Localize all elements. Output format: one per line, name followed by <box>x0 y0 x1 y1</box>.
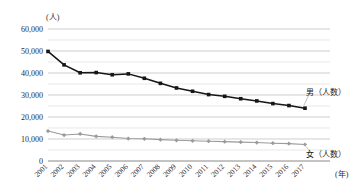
data-series-group <box>46 50 307 147</box>
data-point-male <box>159 82 163 86</box>
y-axis-tick-label: 30,000 <box>21 91 43 100</box>
x-axis-tick-labels: 2001200220032004200520062007200820092010… <box>32 162 306 179</box>
data-point-male <box>46 50 50 54</box>
y-axis-tick-label: 20,000 <box>21 113 43 122</box>
data-point-male <box>110 73 114 77</box>
x-axis-tick-label: 2004 <box>81 162 98 179</box>
data-point-male <box>287 104 291 108</box>
data-point-female <box>223 140 227 144</box>
data-point-female <box>46 129 50 133</box>
data-point-male <box>223 95 227 99</box>
data-point-female <box>126 136 130 140</box>
data-point-male <box>271 102 275 106</box>
data-point-male <box>207 93 211 97</box>
x-axis-tick-label: 2015 <box>257 162 274 179</box>
data-point-male <box>191 89 195 93</box>
x-axis-tick-label: 2013 <box>225 162 242 179</box>
x-axis-tick-label: 2005 <box>97 162 114 179</box>
y-axis-tick-label: 10,000 <box>21 135 43 144</box>
x-axis-tick-label: 2009 <box>161 162 178 179</box>
chart-canvas: 010,00020,00030,00040,00050,00060,000 20… <box>0 0 364 195</box>
x-axis-tick-label: 2011 <box>193 162 210 179</box>
series-label-female: 女（人数） <box>306 149 346 159</box>
data-point-female <box>239 140 243 144</box>
x-axis-tick-label: 2016 <box>273 162 290 179</box>
y-axis-tick-label: 60,000 <box>21 25 43 34</box>
x-axis-tick-label: 2001 <box>32 162 49 179</box>
series-line-female <box>48 131 305 144</box>
data-point-male <box>239 97 243 101</box>
data-point-male <box>62 63 66 67</box>
data-point-female <box>78 132 82 136</box>
x-axis-tick-label: 2017 <box>289 162 306 179</box>
data-point-female <box>62 133 66 137</box>
x-axis-unit-label: (年) <box>335 169 349 179</box>
x-axis-tick-label: 2006 <box>113 162 130 179</box>
line-chart-figure: 010,00020,00030,00040,00050,00060,000 20… <box>0 0 364 195</box>
data-point-male <box>127 72 131 76</box>
y-axis-tick-label: 40,000 <box>21 69 43 78</box>
data-point-female <box>142 137 146 141</box>
series-line-male <box>48 51 305 108</box>
x-axis-tick-label: 2003 <box>65 162 82 179</box>
y-axis-unit-label: (人) <box>46 13 60 22</box>
series-label-male: 男（人数） <box>306 87 346 97</box>
x-axis-tick-label: 2002 <box>49 162 66 179</box>
x-axis-tick-label: 2014 <box>241 162 258 179</box>
y-axis-tick-labels: 010,00020,00030,00040,00050,00060,000 <box>21 25 43 166</box>
data-point-male <box>255 99 259 103</box>
data-point-female <box>207 139 211 143</box>
data-point-female <box>271 141 275 145</box>
data-point-male <box>175 86 179 90</box>
data-point-male <box>303 106 307 110</box>
data-point-male <box>78 71 82 75</box>
data-point-female <box>94 134 98 138</box>
y-axis-tick-label: 50,000 <box>21 47 43 56</box>
x-axis-tick-label: 2007 <box>129 162 146 179</box>
data-point-male <box>143 76 147 80</box>
x-axis-tick-label: 2010 <box>177 162 194 179</box>
data-point-female <box>303 142 307 146</box>
data-point-male <box>94 71 98 75</box>
data-point-female <box>255 140 259 144</box>
data-point-female <box>158 138 162 142</box>
x-axis-tick-label: 2008 <box>145 162 162 179</box>
data-point-female <box>287 141 291 145</box>
x-axis-tick-label: 2012 <box>209 162 226 179</box>
